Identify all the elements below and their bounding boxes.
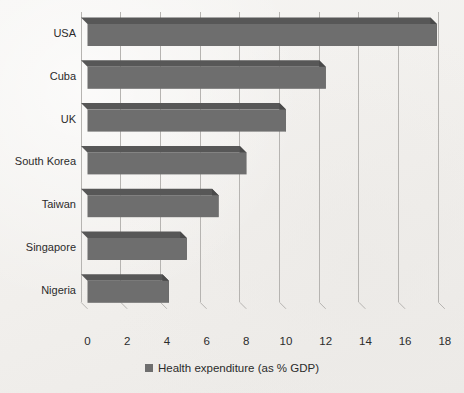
category-label-nigeria: Nigeria (0, 284, 76, 296)
x-tick-label-12: 12 (314, 335, 338, 347)
bar (81, 146, 246, 175)
category-label-south-korea: South Korea (0, 155, 76, 167)
category-label-cuba: Cuba (0, 70, 76, 82)
bar (81, 232, 187, 261)
x-tick-label-18: 18 (433, 335, 457, 347)
category-label-singapore: Singapore (0, 241, 76, 253)
bar (81, 103, 286, 132)
category-label-uk: UK (0, 113, 76, 125)
x-tick-label-4: 4 (155, 335, 179, 347)
x-tick-label-16: 16 (393, 335, 417, 347)
x-tick-label-14: 14 (353, 335, 377, 347)
category-label-usa: USA (0, 27, 76, 39)
bar (81, 60, 326, 89)
category-label-taiwan: Taiwan (0, 198, 76, 210)
legend-label: Health expenditure (as % GDP) (158, 362, 319, 374)
bar (81, 189, 219, 218)
x-tick-label-8: 8 (234, 335, 258, 347)
x-tick-label-10: 10 (274, 335, 298, 347)
x-tick-label-2: 2 (115, 335, 139, 347)
bar (81, 274, 169, 303)
legend-swatch-icon (145, 364, 153, 372)
bar (81, 18, 437, 47)
x-tick-label-0: 0 (76, 335, 100, 347)
chart-container: USACubaUKSouth KoreaTaiwanSingaporeNiger… (0, 0, 464, 393)
chart-legend: Health expenditure (as % GDP) (0, 362, 464, 374)
plot-area: USACubaUKSouth KoreaTaiwanSingaporeNiger… (0, 0, 464, 393)
x-tick-label-6: 6 (195, 335, 219, 347)
